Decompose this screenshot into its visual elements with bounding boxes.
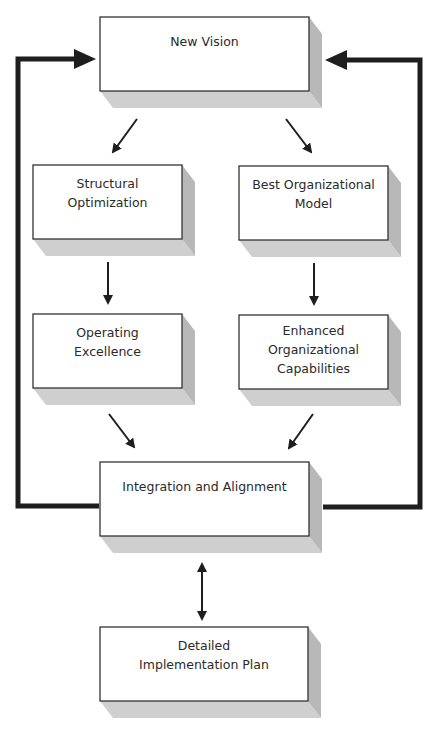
arrow-vision-to-structural: [113, 119, 137, 152]
box-label: New Vision: [170, 34, 239, 49]
node-new-vision: New Vision: [100, 17, 322, 108]
box-label: Optimization: [68, 195, 148, 210]
box-label: Detailed: [178, 638, 230, 653]
node-operating-excellence: OperatingExcellence: [33, 314, 195, 405]
node-enhanced-organizational-capabilities: EnhancedOrganizationalCapabilities: [239, 315, 401, 406]
arrow-enhanced-to-integration: [289, 414, 313, 448]
feedback-loop-left: [18, 49, 99, 506]
box-label: Organizational: [268, 342, 359, 357]
box-label: Best Organizational: [252, 177, 375, 192]
arrow-operating-to-integration: [109, 414, 134, 447]
box-label: Structural: [77, 176, 139, 191]
box-label: Implementation Plan: [139, 657, 269, 672]
box-shadow-bottom: [33, 239, 195, 256]
box-shadow-bottom: [239, 240, 401, 257]
box-label: Model: [295, 196, 333, 211]
node-detailed-implementation-plan: DetailedImplementation Plan: [100, 627, 321, 718]
box-label: Enhanced: [283, 323, 345, 338]
node-structural-optimization: StructuralOptimization: [33, 165, 195, 256]
node-best-organizational-model: Best OrganizationalModel: [239, 166, 401, 257]
box-label: Excellence: [74, 344, 141, 359]
box-label: Capabilities: [277, 361, 350, 376]
box-face: [100, 462, 309, 536]
box-label: Integration and Alignment: [122, 479, 286, 494]
box-label: Operating: [76, 325, 139, 340]
box-face: [100, 17, 309, 91]
arrow-vision-to-best-model: [286, 119, 311, 152]
feedback-loop-right: [323, 50, 420, 507]
box-shadow-bottom: [33, 388, 195, 405]
arrowhead-icon: [74, 49, 96, 69]
box-shadow-bottom: [100, 701, 321, 718]
node-integration-and-alignment: Integration and Alignment: [100, 462, 322, 553]
box-shadow-bottom: [100, 91, 322, 108]
arrowhead-icon: [325, 50, 347, 70]
flow-diagram: New VisionStructuralOptimizationBest Org…: [0, 0, 433, 729]
box-shadow-bottom: [239, 389, 401, 406]
box-shadow-bottom: [100, 536, 322, 553]
